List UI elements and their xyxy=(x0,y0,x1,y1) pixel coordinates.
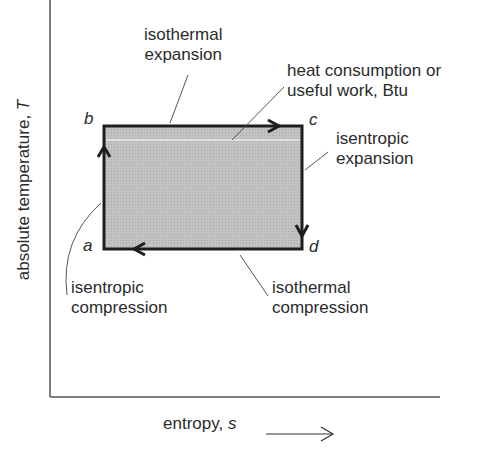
point-a: a xyxy=(83,236,92,256)
point-d: d xyxy=(309,237,318,257)
y-axis-label: absolute temperature, T xyxy=(14,100,34,281)
leader-isothermal-expansion xyxy=(170,75,188,123)
label-isothermal-compression: isothermal compression xyxy=(272,278,368,318)
label-isentropic-expansion: isentropic expansion xyxy=(336,129,414,169)
label-heat-consumption: heat consumption or useful work, Btu xyxy=(287,61,441,101)
x-axis-label: entropy, s xyxy=(163,414,236,434)
label-isothermal-expansion: isothermal expansion xyxy=(144,25,222,65)
point-b: b xyxy=(84,109,93,129)
leader-isentropic-expansion xyxy=(305,152,328,170)
leader-isothermal-compression xyxy=(240,255,268,296)
point-c: c xyxy=(309,110,318,130)
label-isentropic-compression: isentropic compression xyxy=(71,278,167,318)
cycle-area xyxy=(104,126,302,249)
